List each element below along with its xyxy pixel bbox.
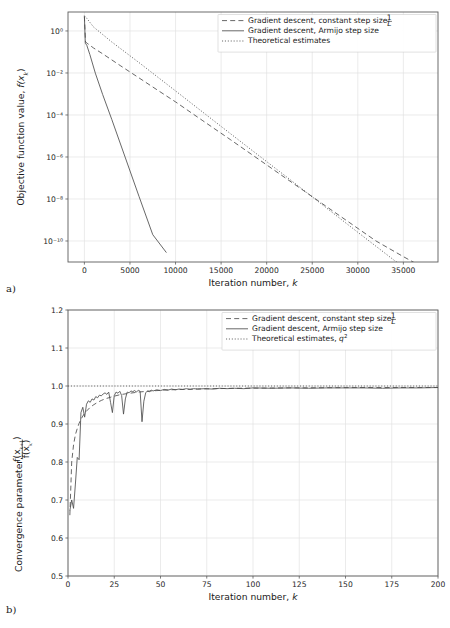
svg-text:10⁻⁸: 10⁻⁸ xyxy=(46,195,63,204)
svg-text:50: 50 xyxy=(156,580,166,589)
panel-b-series-0 xyxy=(70,388,438,516)
svg-text:10⁻⁴: 10⁻⁴ xyxy=(46,111,63,120)
panel-a-svg: 0500010000150002000025000300003500010⁰10… xyxy=(0,0,450,310)
svg-text:0.7: 0.7 xyxy=(51,496,63,505)
panel-a-tick-labels: 0500010000150002000025000300003500010⁰10… xyxy=(43,27,415,275)
panel-a-legend[interactable]: Gradient descent, constant step size 1LG… xyxy=(218,13,436,52)
chart-panel-a: 0500010000150002000025000300003500010⁰10… xyxy=(0,0,450,310)
panel-b-legend-label-1: Gradient descent, Armijo step size xyxy=(252,324,383,333)
svg-text:10⁰: 10⁰ xyxy=(50,27,63,36)
panel-a-legend-label-0: Gradient descent, constant step size xyxy=(248,16,388,25)
panel-a-series-0 xyxy=(84,16,421,266)
svg-text:f(xk): f(xk) xyxy=(20,440,33,459)
panel-b-svg: 02550751001251501752000.50.60.70.80.91.0… xyxy=(0,300,450,628)
svg-text:30000: 30000 xyxy=(346,266,370,275)
panel-a-series-group xyxy=(84,16,421,280)
svg-text:1.0: 1.0 xyxy=(51,382,63,391)
chart-panel-b: 02550751001251501752000.50.60.70.80.91.0… xyxy=(0,300,450,628)
panel-a-legend-label-1: Gradient descent, Armijo step size xyxy=(248,26,379,35)
svg-text:10⁻²: 10⁻² xyxy=(46,69,63,78)
panel-b-legend[interactable]: Gradient descent, constant step size 1LG… xyxy=(222,311,436,350)
svg-text:25000: 25000 xyxy=(300,266,324,275)
svg-text:20000: 20000 xyxy=(255,266,279,275)
panel-b-series-1 xyxy=(70,388,438,511)
panel-b-ylabel: Convergence parameter, f(xk+1)f(xk) xyxy=(11,436,33,572)
svg-text:0.8: 0.8 xyxy=(51,458,63,467)
svg-text:1.2: 1.2 xyxy=(51,306,63,315)
svg-text:125: 125 xyxy=(292,580,307,589)
svg-text:0: 0 xyxy=(82,266,87,275)
svg-text:Convergence parameter,: Convergence parameter, xyxy=(13,457,24,572)
svg-text:10000: 10000 xyxy=(163,266,187,275)
panel-label-a: a) xyxy=(6,283,16,294)
panel-a-legend-label-2: Theoretical estimates xyxy=(247,36,330,45)
svg-text:0.9: 0.9 xyxy=(51,420,63,429)
svg-text:200: 200 xyxy=(431,580,446,589)
svg-text:5000: 5000 xyxy=(120,266,139,275)
figure-container: 0500010000150002000025000300003500010⁰10… xyxy=(0,0,450,628)
svg-text:L: L xyxy=(391,317,395,326)
svg-text:0.5: 0.5 xyxy=(51,572,63,581)
svg-text:25: 25 xyxy=(109,580,119,589)
panel-a-xlabel: Iteration number, k xyxy=(209,277,299,288)
panel-label-b: b) xyxy=(6,604,16,615)
svg-text:15000: 15000 xyxy=(209,266,233,275)
svg-text:150: 150 xyxy=(338,580,353,589)
svg-text:Iteration number, k: Iteration number, k xyxy=(209,591,299,602)
svg-text:75: 75 xyxy=(202,580,212,589)
svg-text:Iteration number, k: Iteration number, k xyxy=(209,277,299,288)
panel-a-series-2 xyxy=(84,16,421,280)
panel-b-legend-label-0: Gradient descent, constant step size xyxy=(252,314,392,323)
svg-text:0: 0 xyxy=(66,580,71,589)
panel-b-xlabel: Iteration number, k xyxy=(209,591,299,602)
svg-text:175: 175 xyxy=(385,580,400,589)
panel-b-legend-label-2: Theoretical estimates, q2 xyxy=(251,333,347,343)
svg-text:0.6: 0.6 xyxy=(51,534,63,543)
svg-text:100: 100 xyxy=(246,580,261,589)
svg-text:35000: 35000 xyxy=(391,266,415,275)
svg-text:L: L xyxy=(387,19,391,28)
svg-text:1.1: 1.1 xyxy=(51,344,63,353)
panel-a-ylabel: Objective function value, f(xk) xyxy=(15,68,29,205)
svg-text:10⁻⁶: 10⁻⁶ xyxy=(46,153,63,162)
panel-a-series-1 xyxy=(84,16,166,252)
svg-text:Objective function value, f(xk: Objective function value, f(xk) xyxy=(15,68,29,205)
svg-text:10⁻¹⁰: 10⁻¹⁰ xyxy=(43,237,63,246)
